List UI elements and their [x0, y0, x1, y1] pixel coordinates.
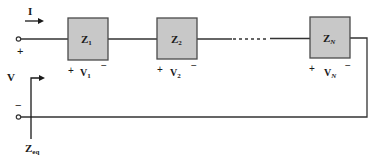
voltage-indicator: V Zeq — [7, 71, 45, 156]
current-label: I — [28, 5, 32, 17]
terminal-minus-sign: − — [15, 99, 21, 111]
vn-label: VN — [324, 67, 337, 80]
impedance-z1[interactable]: Z1 + V1 − — [68, 18, 108, 80]
zeq-arrow-shaft — [31, 78, 40, 139]
series-circuit-diagram: + − I V Zeq Z1 + V1 − Z2 + V2 − ZN + VN … — [0, 0, 372, 161]
arrow-right-icon — [39, 75, 45, 81]
current-arrow: I — [25, 5, 44, 24]
v1-plus: + — [68, 65, 74, 76]
terminal-plus-sign: + — [17, 45, 23, 57]
vn-minus: − — [345, 60, 351, 71]
zeq-subscript: eq — [32, 148, 39, 156]
terminal-plus[interactable] — [16, 37, 20, 41]
impedance-z2[interactable]: Z2 + V2 − — [157, 18, 197, 80]
v1-label: V1 — [80, 67, 91, 80]
zeq-label: Zeq — [25, 142, 39, 156]
terminal-minus[interactable] — [16, 115, 20, 119]
vn-plus: + — [309, 63, 315, 74]
v2-minus: − — [191, 60, 197, 71]
v2-plus: + — [157, 64, 163, 75]
impedance-zn[interactable]: ZN + VN − — [309, 17, 351, 80]
arrow-right-icon — [38, 18, 44, 24]
v1-minus: − — [101, 60, 107, 71]
v2-label: V2 — [170, 67, 181, 80]
voltage-label: V — [7, 71, 15, 83]
